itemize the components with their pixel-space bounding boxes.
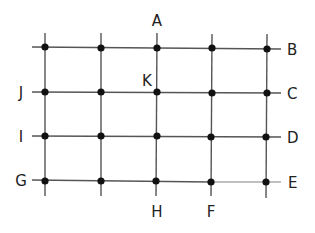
- col-line-f: [211, 34, 212, 196]
- node: [208, 89, 215, 96]
- node: [97, 177, 104, 184]
- node: [263, 45, 270, 52]
- label-k: K: [142, 72, 153, 90]
- vertical-lines: [45, 33, 267, 198]
- node: [97, 44, 104, 51]
- row-line-e: [32, 180, 211, 182]
- grid-diagram: A B C D E F G H I J K: [0, 0, 315, 233]
- label-a: A: [152, 12, 163, 30]
- col-line-a-h: [156, 33, 157, 196]
- node: [207, 133, 214, 140]
- node: [208, 44, 215, 51]
- label-j: J: [18, 84, 23, 102]
- node: [41, 43, 48, 50]
- node: [153, 44, 160, 51]
- node: [41, 88, 48, 95]
- node: [97, 88, 104, 95]
- label-e: E: [288, 174, 297, 192]
- node: [41, 132, 48, 139]
- node: [97, 132, 104, 139]
- label-f: F: [207, 203, 216, 221]
- node-k: [153, 88, 160, 95]
- label-i: I: [19, 128, 23, 146]
- label-g: G: [15, 172, 27, 190]
- label-c: C: [287, 85, 297, 103]
- node: [262, 133, 269, 140]
- label-h: H: [151, 203, 162, 221]
- node: [263, 89, 270, 96]
- node: [153, 132, 160, 139]
- col-line-5: [266, 34, 267, 198]
- node: [207, 178, 214, 185]
- node: [41, 177, 48, 184]
- label-d: D: [287, 129, 299, 147]
- node: [262, 178, 269, 185]
- label-b: B: [287, 41, 297, 59]
- node: [152, 177, 159, 184]
